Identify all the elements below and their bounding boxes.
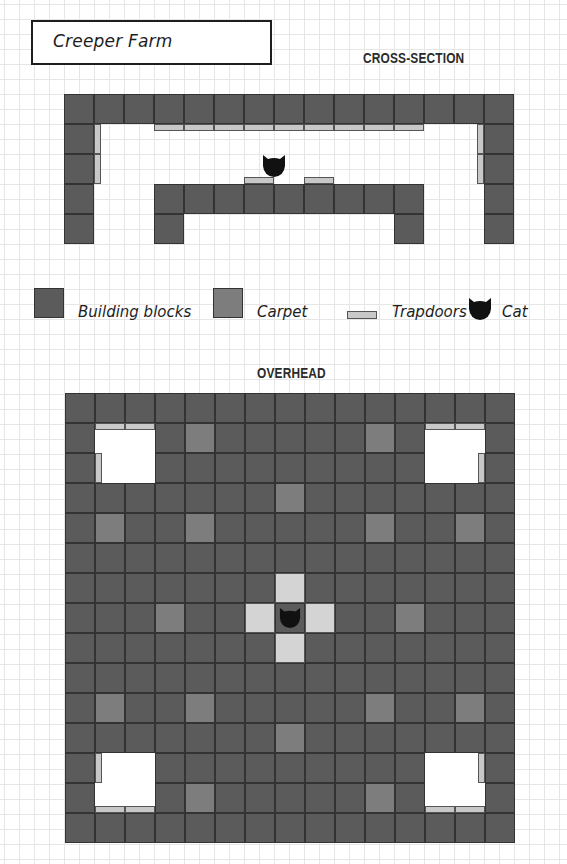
building-block <box>155 783 185 813</box>
trapdoor <box>125 423 155 430</box>
building-block <box>335 783 365 813</box>
building-block <box>305 753 335 783</box>
carpet-tile <box>95 693 125 723</box>
carpet-tile <box>455 513 485 543</box>
carpet-tile <box>185 693 215 723</box>
building-block <box>395 573 425 603</box>
building-block <box>185 393 215 423</box>
building-block <box>395 393 425 423</box>
building-block <box>305 393 335 423</box>
building-block <box>184 94 214 124</box>
building-block <box>125 543 155 573</box>
title-box: Creeper Farm <box>31 20 272 65</box>
carpet-tile <box>365 513 395 543</box>
building-block <box>155 573 185 603</box>
building-block <box>215 513 245 543</box>
building-block <box>425 573 455 603</box>
legend-label: Building blocks <box>78 303 191 321</box>
building-block <box>485 423 515 453</box>
trapdoor <box>95 753 102 783</box>
trapdoor <box>477 124 484 154</box>
building-block <box>485 783 515 813</box>
building-block <box>155 453 185 483</box>
cat-icon <box>468 297 492 321</box>
building-block <box>245 663 275 693</box>
building-block <box>395 513 425 543</box>
building-block <box>425 813 455 843</box>
building-block <box>154 184 184 214</box>
trapdoor <box>274 124 304 131</box>
building-block <box>275 663 305 693</box>
open-hole <box>425 453 455 483</box>
legend-label: Trapdoors <box>392 303 467 321</box>
cross-section-heading: CROSS-SECTION <box>363 50 464 66</box>
building-block <box>335 813 365 843</box>
building-block <box>365 543 395 573</box>
building-block <box>215 723 245 753</box>
building-block <box>484 94 514 124</box>
building-block <box>485 603 515 633</box>
carpet-tile <box>455 693 485 723</box>
building-block <box>65 483 95 513</box>
building-block <box>215 813 245 843</box>
trapdoor <box>394 124 424 131</box>
building-block <box>245 423 275 453</box>
building-block <box>125 723 155 753</box>
carpet-tile <box>365 423 395 453</box>
building-block <box>125 603 155 633</box>
building-block <box>365 753 395 783</box>
building-block <box>125 393 155 423</box>
building-block <box>455 543 485 573</box>
open-hole <box>125 453 155 483</box>
building-block <box>364 184 394 214</box>
building-block <box>95 393 125 423</box>
building-block <box>215 483 245 513</box>
building-block <box>275 693 305 723</box>
carpet-swatch-icon <box>213 288 243 318</box>
trapdoor <box>244 124 274 131</box>
building-block <box>305 813 335 843</box>
building-block <box>485 753 515 783</box>
building-block <box>95 543 125 573</box>
building-block <box>485 483 515 513</box>
trapdoor <box>95 806 125 813</box>
building-block <box>425 393 455 423</box>
building-block <box>95 633 125 663</box>
building-block <box>155 753 185 783</box>
trapdoor <box>477 154 484 184</box>
building-block <box>484 124 514 154</box>
building-block <box>335 693 365 723</box>
building-block <box>65 543 95 573</box>
building-block <box>394 184 424 214</box>
building-block <box>185 603 215 633</box>
building-block <box>95 483 125 513</box>
trapdoor <box>154 124 184 131</box>
building-block <box>155 813 185 843</box>
building-block <box>334 184 364 214</box>
building-block <box>275 813 305 843</box>
building-block <box>335 423 365 453</box>
building-block <box>395 453 425 483</box>
building-block <box>304 184 334 214</box>
building-block <box>215 693 245 723</box>
trapdoor <box>94 154 101 184</box>
building-block <box>485 693 515 723</box>
building-block <box>245 723 275 753</box>
building-block <box>215 663 245 693</box>
building-block <box>335 723 365 753</box>
building-block <box>65 423 95 453</box>
trapdoor <box>244 177 274 184</box>
building-block <box>425 603 455 633</box>
building-block <box>215 573 245 603</box>
building-block <box>305 483 335 513</box>
building-block <box>275 543 305 573</box>
building-block <box>365 633 395 663</box>
building-block <box>395 663 425 693</box>
legend-label: Cat <box>502 303 528 321</box>
carpet-tile <box>275 723 305 753</box>
building-block <box>485 663 515 693</box>
building-block <box>245 693 275 723</box>
building-block <box>215 633 245 663</box>
building-block <box>485 813 515 843</box>
trapdoor <box>214 124 244 131</box>
